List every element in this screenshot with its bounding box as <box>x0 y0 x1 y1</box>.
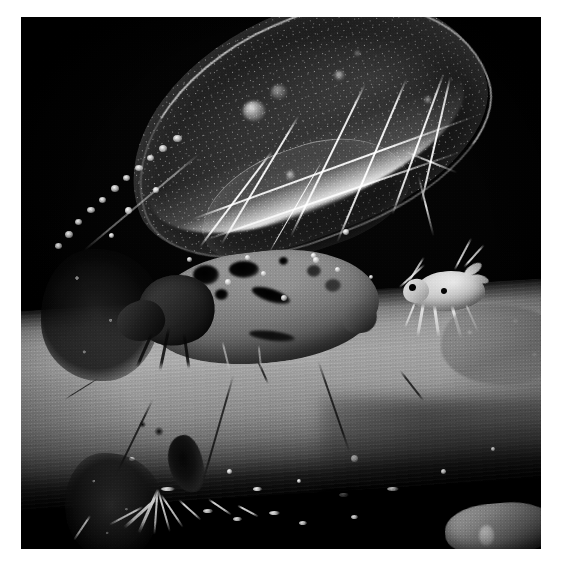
wing-reflection <box>287 171 294 180</box>
stem-speck <box>491 447 495 451</box>
antenna-segment <box>55 243 62 249</box>
abdomen-tubercle <box>281 295 287 301</box>
wing-reflection <box>425 97 431 103</box>
photo-title: Winged aphid and nymph on plant stem <box>0 0 1 1</box>
abdomen-spot <box>279 257 288 265</box>
trichome <box>178 499 202 521</box>
wax-speck <box>311 253 316 258</box>
wax-speck <box>125 207 132 214</box>
antenna-segment <box>99 197 106 203</box>
stem-speck <box>297 479 301 483</box>
stem-speck <box>351 455 358 462</box>
wax-speck <box>269 511 280 515</box>
trichome <box>208 498 232 515</box>
wing-reflection <box>335 71 344 80</box>
antenna-segment <box>65 231 73 238</box>
wax-speck <box>153 187 159 193</box>
antenna-segment <box>159 145 167 152</box>
wax-speck <box>369 275 373 279</box>
antenna-segment <box>135 165 143 171</box>
abdomen-tubercle <box>187 257 192 262</box>
antenna-segment <box>147 155 154 161</box>
page-root: Winged aphid and nymph on plant stem Bla… <box>0 0 562 570</box>
wax-speck <box>343 229 349 235</box>
scale-insect-glint <box>479 525 494 546</box>
debris-cluster <box>65 453 161 549</box>
abdomen-spot <box>229 261 259 278</box>
photograph-canvas <box>21 17 541 549</box>
stem-speck <box>253 487 262 491</box>
abdomen-spot <box>307 265 321 277</box>
trichome <box>237 504 259 517</box>
antenna-segment <box>173 135 182 142</box>
antenna-segment <box>87 207 95 213</box>
photo-description: Black-and-white macro photograph of an a… <box>0 0 1 1</box>
stem-speck <box>441 469 446 474</box>
wing-reflection <box>355 51 360 56</box>
wax-speck <box>233 517 242 521</box>
wax-speck <box>203 509 213 513</box>
nymph-eye <box>409 284 416 291</box>
abdomen-tubercle <box>335 267 340 272</box>
winged-aphid <box>129 245 379 370</box>
antenna-segment <box>123 175 130 181</box>
nymph-leg <box>404 302 417 329</box>
plant-stem-shadow <box>321 397 541 487</box>
abdomen-tubercle <box>261 271 266 276</box>
abdomen-tubercle <box>245 255 250 260</box>
wax-speck <box>109 233 114 238</box>
antenna-segment <box>75 219 82 225</box>
stem-speck <box>227 469 232 474</box>
antenna-segment <box>111 185 119 192</box>
wax-speck <box>351 515 358 519</box>
photograph-frame <box>21 17 541 549</box>
wing-reflection <box>243 101 265 121</box>
stem-speck <box>161 487 175 491</box>
abdomen-spot <box>325 279 341 292</box>
nymph-leg <box>416 303 424 337</box>
abdomen-tubercle <box>225 279 231 285</box>
abdomen-spot <box>215 289 228 300</box>
wax-speck <box>299 521 307 525</box>
stem-lesion-small <box>154 427 164 436</box>
wing-reflection <box>271 85 287 99</box>
nymph-marking <box>441 288 447 294</box>
